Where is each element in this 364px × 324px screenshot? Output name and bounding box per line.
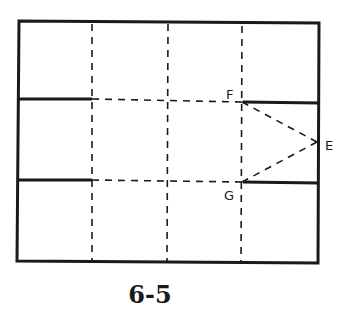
point-label-e: E	[325, 138, 333, 153]
valley-fold-vertical-3	[241, 26, 242, 262]
fold-diagram: F E G	[0, 0, 364, 324]
figure-caption: 6-5	[100, 280, 200, 309]
valley-fold-horizontal-upper	[92, 99, 242, 102]
fold-e-to-g	[242, 142, 317, 182]
crease-right-lower	[243, 182, 319, 183]
valley-fold-vertical-2	[167, 24, 168, 261]
crease-right-upper	[243, 102, 319, 103]
point-label-g: G	[224, 188, 234, 203]
point-label-f: F	[226, 87, 233, 102]
fold-f-to-e	[242, 102, 317, 142]
